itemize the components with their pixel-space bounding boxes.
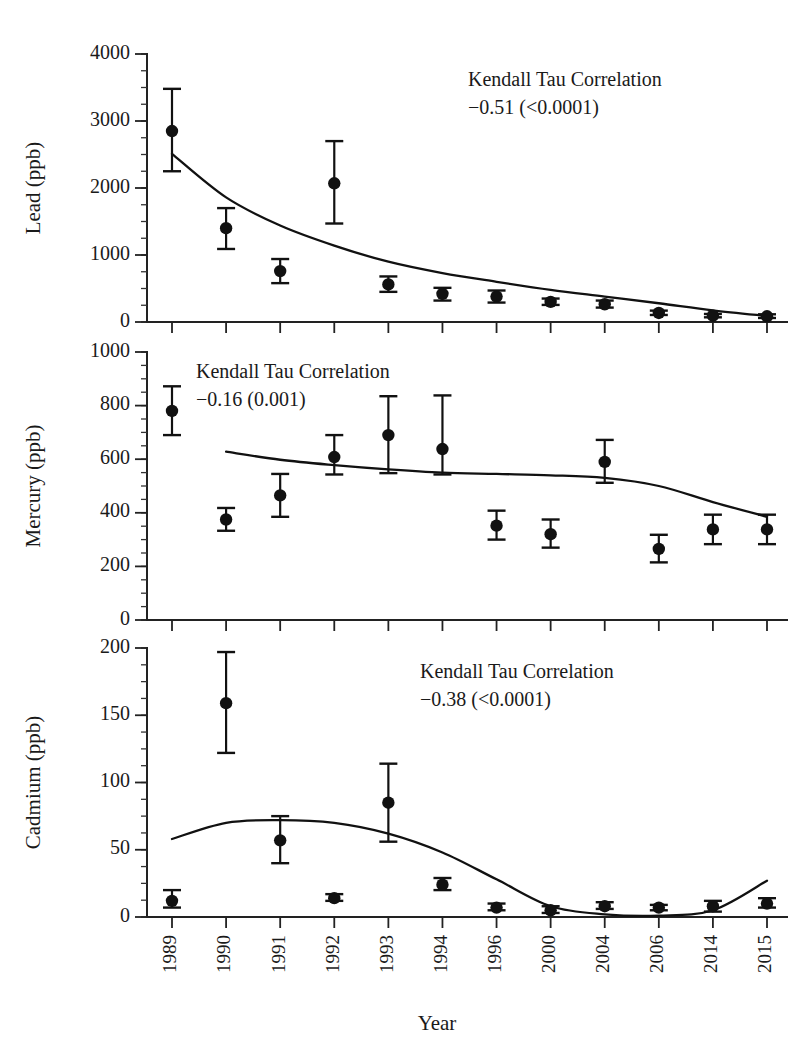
data-point-1993: [379, 764, 397, 842]
data-marker: [436, 288, 448, 300]
data-marker: [166, 125, 178, 137]
x-tick-label-1993: 1993: [376, 935, 397, 973]
x-tick-label-1990: 1990: [213, 935, 234, 973]
y-tick-label: 200: [100, 553, 130, 575]
y-tick-label: 200: [100, 635, 130, 657]
figure-root: 01000200030004000Lead (ppb)Kendall Tau C…: [0, 0, 801, 1059]
data-marker: [220, 222, 232, 234]
data-marker: [761, 523, 773, 535]
x-tick-label-2004: 2004: [592, 935, 613, 974]
annotation-title-mercury: Kendall Tau Correlation: [196, 360, 390, 382]
data-marker: [490, 901, 502, 913]
panel-mercury: 02004006008001000Mercury (ppb)Kendall Ta…: [21, 339, 787, 631]
y-axis-title-cadmium: Cadmium (ppb): [21, 716, 45, 850]
data-marker: [544, 528, 556, 540]
y-tick-label: 3000: [90, 108, 130, 130]
data-marker: [274, 265, 286, 277]
y-tick-label: 800: [100, 392, 130, 414]
x-tick-label-2006: 2006: [646, 935, 667, 973]
data-point-2014: [704, 900, 722, 912]
annotation-title-lead: Kendall Tau Correlation: [468, 68, 662, 90]
y-tick-label: 0: [120, 904, 130, 926]
data-point-1989: [163, 890, 181, 907]
y-tick-label: 1000: [90, 242, 130, 264]
y-tick-label: 2000: [90, 175, 130, 197]
data-point-1991: [271, 259, 289, 283]
data-point-2000: [542, 904, 560, 916]
panels-group: 01000200030004000Lead (ppb)Kendall Tau C…: [21, 41, 787, 973]
data-point-1991: [271, 474, 289, 517]
data-point-1989: [163, 386, 181, 435]
data-point-2006: [650, 307, 668, 319]
y-tick-label: 100: [100, 769, 130, 791]
data-point-2000: [542, 296, 560, 308]
y-tick-label: 0: [120, 309, 130, 331]
data-marker: [707, 900, 719, 912]
annotation-title-cadmium: Kendall Tau Correlation: [420, 660, 614, 682]
y-tick-label: 600: [100, 446, 130, 468]
data-point-1996: [488, 290, 506, 302]
data-point-1990: [217, 652, 235, 753]
data-marker: [166, 895, 178, 907]
data-marker: [166, 405, 178, 417]
y-tick-label: 1000: [90, 339, 130, 361]
fit-curve-cadmium: [172, 820, 767, 916]
data-marker: [274, 489, 286, 501]
data-point-2015: [758, 515, 776, 544]
data-marker: [761, 310, 773, 322]
data-marker: [436, 443, 448, 455]
data-point-1992: [325, 141, 343, 223]
y-tick-label: 4000: [90, 41, 130, 63]
data-marker: [707, 309, 719, 321]
data-marker: [436, 879, 448, 891]
annotation-value-lead: −0.51 (<0.0001): [468, 96, 599, 119]
data-marker: [220, 513, 232, 525]
x-axis-title: Year: [418, 1011, 457, 1035]
x-tick-label-1992: 1992: [322, 935, 343, 973]
annotation-value-cadmium: −0.38 (<0.0001): [420, 688, 551, 711]
data-marker: [490, 290, 502, 302]
y-axis-title-lead: Lead (ppb): [21, 142, 45, 235]
data-marker: [328, 892, 340, 904]
data-marker: [544, 296, 556, 308]
data-marker: [382, 429, 394, 441]
data-point-2004: [596, 900, 614, 912]
data-point-1994: [433, 288, 451, 301]
panel-cadmium: 050100150200Cadmium (ppb)Kendall Tau Cor…: [21, 635, 787, 928]
data-point-1994: [433, 878, 451, 891]
data-point-1991: [271, 816, 289, 863]
y-tick-label: 0: [120, 607, 130, 629]
fit-curve-lead: [172, 154, 767, 316]
panel-lead: 01000200030004000Lead (ppb)Kendall Tau C…: [21, 41, 787, 333]
data-marker: [707, 523, 719, 535]
y-tick-label: 400: [100, 499, 130, 521]
data-point-2000: [542, 520, 560, 548]
data-point-1992: [325, 892, 343, 904]
x-tick-label-2000: 2000: [538, 935, 559, 973]
data-marker: [220, 697, 232, 709]
data-point-1993: [379, 276, 397, 291]
multi-panel-chart: 01000200030004000Lead (ppb)Kendall Tau C…: [0, 0, 801, 1059]
data-point-1990: [217, 208, 235, 249]
y-tick-label: 50: [110, 836, 130, 858]
data-point-2006: [650, 901, 668, 913]
data-point-2006: [650, 535, 668, 563]
x-tick-label-1989: 1989: [159, 935, 180, 973]
annotation-value-mercury: −0.16 (0.001): [196, 388, 306, 411]
data-point-2004: [596, 298, 614, 310]
y-tick-label: 150: [100, 702, 130, 724]
data-marker: [653, 901, 665, 913]
data-marker: [490, 519, 502, 531]
y-axis-title-mercury: Mercury (ppb): [21, 424, 45, 547]
x-tick-label-1991: 1991: [268, 935, 289, 973]
data-marker: [328, 177, 340, 189]
x-tick-label-1996: 1996: [484, 935, 505, 973]
data-marker: [544, 904, 556, 916]
fit-curve-mercury: [226, 452, 767, 517]
data-marker: [382, 796, 394, 808]
data-marker: [653, 307, 665, 319]
data-marker: [274, 834, 286, 846]
data-marker: [382, 278, 394, 290]
data-marker: [761, 897, 773, 909]
data-point-1992: [325, 435, 343, 474]
